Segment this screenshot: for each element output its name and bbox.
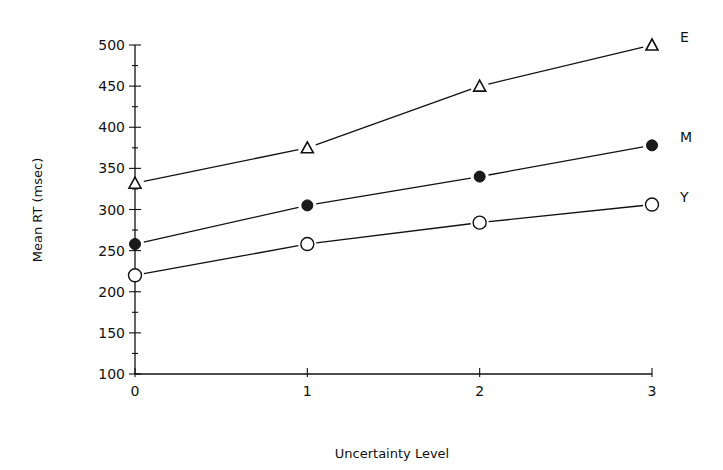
x-tick-label: 0 (131, 383, 140, 399)
y-tick-label: 100 (98, 366, 125, 382)
triangle-marker (646, 39, 658, 50)
series-line-segment (144, 207, 299, 242)
series-group: EMY (129, 29, 693, 282)
y-tick-label: 200 (98, 284, 125, 300)
x-tick-label: 2 (475, 383, 484, 399)
series-label-y: Y (679, 189, 689, 205)
y-tick-label: 450 (98, 78, 125, 94)
open-circle-marker (301, 238, 314, 251)
y-tick-label: 500 (98, 37, 125, 53)
x-tick-label: 1 (303, 383, 312, 399)
series-line-segment (489, 206, 643, 222)
y-tick-label: 400 (98, 119, 125, 135)
y-tick-label: 150 (98, 325, 125, 341)
triangle-marker (301, 142, 313, 153)
axes: 1001502002503003504004505000123 (98, 37, 656, 399)
series-line-segment (316, 89, 471, 145)
open-circle-marker (129, 269, 142, 282)
line-chart: 1001502002503003504004505000123 EMY Mean… (0, 0, 723, 470)
filled-circle-marker (302, 200, 313, 211)
series-label-e: E (680, 29, 689, 45)
triangle-marker (474, 80, 486, 91)
open-circle-marker (473, 216, 486, 229)
y-tick-label: 350 (98, 160, 125, 176)
series-line-segment (144, 150, 299, 182)
series-line-segment (316, 178, 471, 204)
triangle-marker (129, 177, 141, 188)
open-circle-marker (646, 198, 659, 211)
series-line-segment (488, 47, 643, 84)
series-y: Y (129, 189, 690, 282)
x-axis-title: Uncertainty Level (335, 446, 449, 461)
x-tick-label: 3 (648, 383, 657, 399)
filled-circle-marker (647, 140, 658, 151)
filled-circle-marker (474, 171, 485, 182)
series-line-segment (489, 147, 644, 175)
series-line-segment (144, 246, 299, 274)
y-tick-label: 300 (98, 202, 125, 218)
filled-circle-marker (130, 239, 141, 250)
y-tick-label: 250 (98, 243, 125, 259)
series-e: E (129, 29, 689, 188)
series-line-segment (316, 224, 470, 243)
series-label-m: M (680, 129, 692, 145)
y-axis-title: Mean RT (msec) (30, 158, 45, 262)
